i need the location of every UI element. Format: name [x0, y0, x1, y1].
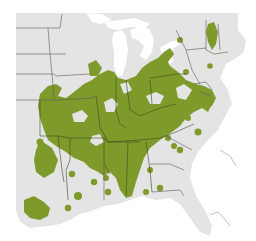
coastline [210, 150, 236, 226]
range-map [0, 0, 256, 241]
